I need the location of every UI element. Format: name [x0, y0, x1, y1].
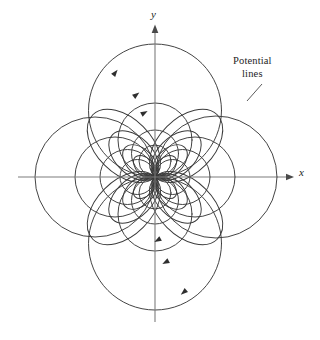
x-axis-label: x — [298, 166, 304, 178]
flow-direction-arrowhead — [161, 258, 170, 266]
potential-lines-diagram: x y — [0, 0, 320, 340]
potential-lines-label: Potential lines — [233, 55, 272, 80]
figure-canvas: x y Potential lines — [0, 0, 320, 340]
flow-direction-arrowhead — [111, 68, 120, 77]
y-axis-arrowhead — [152, 25, 159, 34]
flow-direction-arrows — [111, 68, 188, 297]
callout-line-1: Potential — [233, 55, 272, 66]
x-axis-arrowhead — [286, 174, 294, 181]
callout-leader-line — [247, 84, 262, 101]
flow-direction-arrowhead — [132, 90, 141, 99]
flow-direction-arrowhead — [179, 288, 188, 297]
flow-direction-arrowhead — [140, 109, 149, 117]
flow-direction-arrowhead — [153, 236, 162, 244]
y-axis-label: y — [150, 8, 156, 20]
callout-line-2: lines — [233, 68, 272, 81]
